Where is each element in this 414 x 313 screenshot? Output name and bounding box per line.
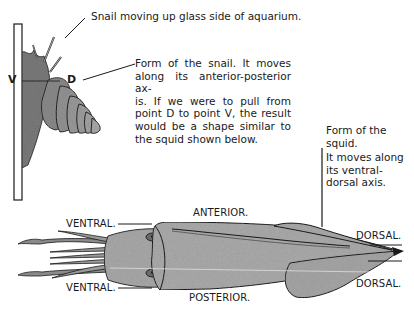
snail-shell: [42, 78, 101, 134]
squid-description-line: its ventral-: [326, 164, 414, 177]
label-dorsal-bottom: DORSAL.: [356, 278, 401, 290]
snail-description-line: Form of the snail. It moves: [135, 57, 291, 70]
label-anterior: ANTERIOR.: [193, 207, 248, 219]
squid-description-line: It moves along: [326, 151, 414, 164]
squid-description-line: squid.: [326, 137, 414, 150]
squid-description: Form of the squid. It moves along its ve…: [326, 124, 414, 189]
snail-description-line: would be a shape similar to: [135, 120, 291, 133]
diagram-canvas: Snail moving up glass side of aquarium. …: [0, 0, 414, 313]
label-dorsal-top: DORSAL.: [356, 230, 401, 242]
glass-pane: [14, 24, 22, 200]
snail-description: Form of the snail. It moves along its an…: [135, 57, 291, 145]
snail-illustration: [14, 18, 135, 200]
label-ventral-bottom: VENTRAL.: [66, 282, 116, 294]
label-posterior: POSTERIOR.: [189, 292, 250, 304]
squid-description-line: Form of the: [326, 124, 414, 137]
point-v-label: V: [8, 73, 17, 86]
point-d-label: D: [67, 73, 76, 86]
label-ventral-top: VENTRAL.: [66, 218, 116, 230]
squid-description-line: dorsal axis.: [326, 176, 414, 189]
description-leader-line: [83, 64, 135, 80]
caption-leader-line: [65, 18, 85, 38]
snail-caption: Snail moving up glass side of aquarium.: [91, 10, 301, 23]
snail-description-line: point D to point V, the result: [135, 107, 291, 120]
snail-description-line: along its anterior-posterior ax-: [135, 70, 291, 95]
snail-description-line: the squid shown below.: [135, 133, 291, 146]
snail-description-line: is. If we were to pull from: [135, 95, 291, 108]
